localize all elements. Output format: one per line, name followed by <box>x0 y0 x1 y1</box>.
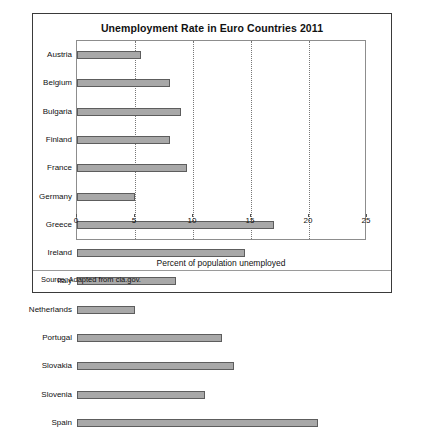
y-axis-label-france: France <box>47 164 72 172</box>
source-note: Source: Adapted from cia.gov. <box>41 275 141 284</box>
bar-belgium <box>77 79 170 87</box>
bar-row: Belgium <box>77 69 365 97</box>
y-axis-label-bulgaria: Bulgaria <box>43 108 72 116</box>
y-axis-label-ireland: Ireland <box>48 249 72 257</box>
y-axis-label-belgium: Belgium <box>43 79 72 87</box>
bar-slovenia <box>77 391 205 399</box>
chart-title: Unemployment Rate in Euro Countries 2011 <box>33 22 391 34</box>
bar-row: Slovakia <box>77 352 365 380</box>
x-tick-label-5: 5 <box>132 216 136 225</box>
source-divider <box>33 270 391 271</box>
bar-row: Netherlands <box>77 296 365 324</box>
bar-bulgaria <box>77 108 181 116</box>
bar-row: Portugal <box>77 324 365 352</box>
bar-row: Greece <box>77 211 365 239</box>
x-tick-label-0: 0 <box>74 216 78 225</box>
x-tick-label-25: 25 <box>362 216 371 225</box>
bar-finland <box>77 136 170 144</box>
bar-rows: AustriaBelgiumBulgariaFinlandFranceGerma… <box>77 41 365 239</box>
bar-germany <box>77 193 135 201</box>
plot-area: AustriaBelgiumBulgariaFinlandFranceGerma… <box>76 40 366 240</box>
y-axis-label-greece: Greece <box>46 221 72 229</box>
bar-slovakia <box>77 362 234 370</box>
bar-spain <box>77 419 318 427</box>
chart-figure: Unemployment Rate in Euro Countries 2011… <box>32 13 392 293</box>
bar-row: France <box>77 154 365 182</box>
bar-row: Bulgaria <box>77 98 365 126</box>
bar-row: Germany <box>77 182 365 210</box>
x-tick-label-20: 20 <box>304 216 313 225</box>
bar-row: Finland <box>77 126 365 154</box>
y-axis-label-germany: Germany <box>39 193 72 201</box>
bar-row: Austria <box>77 41 365 69</box>
bar-france <box>77 164 187 172</box>
y-axis-label-slovenia: Slovenia <box>41 391 72 399</box>
y-axis-label-slovakia: Slovakia <box>42 362 72 370</box>
x-axis-label: Percent of population unemployed <box>76 258 366 268</box>
bar-ireland <box>77 249 245 257</box>
bar-netherlands <box>77 306 135 314</box>
y-axis-label-netherlands: Netherlands <box>29 306 72 314</box>
y-axis-label-austria: Austria <box>47 51 72 59</box>
y-axis-label-spain: Spain <box>52 419 72 427</box>
bar-portugal <box>77 334 222 342</box>
x-tick-label-15: 15 <box>246 216 255 225</box>
bar-austria <box>77 51 141 59</box>
y-axis-label-finland: Finland <box>46 136 72 144</box>
bar-row: Spain <box>77 409 365 431</box>
x-tick-label-10: 10 <box>188 216 197 225</box>
bar-row: Slovenia <box>77 380 365 408</box>
y-axis-label-portugal: Portugal <box>42 334 72 342</box>
